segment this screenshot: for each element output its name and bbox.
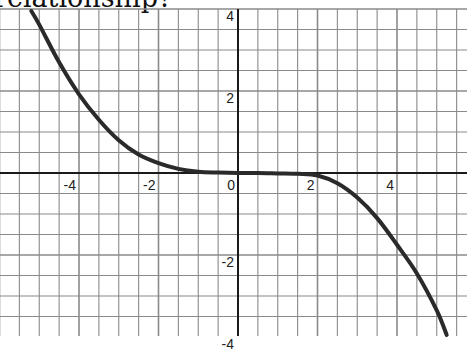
x-tick-label: -2 xyxy=(143,177,156,193)
x-tick-label: 0 xyxy=(227,177,235,193)
y-tick-label: -2 xyxy=(222,254,235,270)
x-tick-label: -4 xyxy=(64,177,77,193)
y-tick-label: 4 xyxy=(226,8,234,24)
y-tick-label: 2 xyxy=(226,90,234,106)
x-tick-label: 4 xyxy=(386,177,394,193)
function-graph: -6-4-2024 42-2-4 xyxy=(0,0,467,350)
x-tick-label: 2 xyxy=(307,177,315,193)
y-tick-label: -4 xyxy=(222,336,235,350)
